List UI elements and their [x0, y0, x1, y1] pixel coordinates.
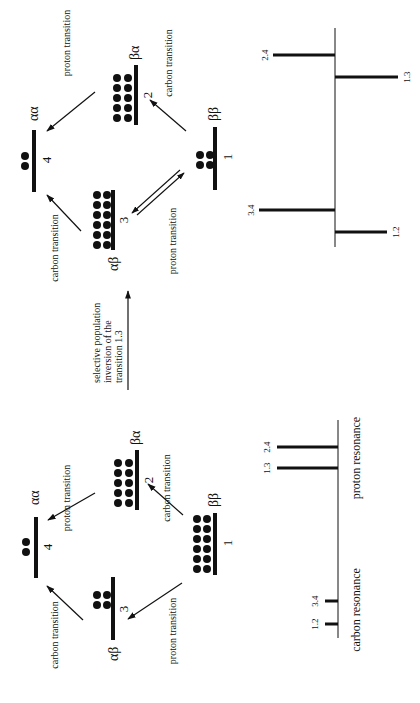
- spin-state-label: αβ: [106, 257, 121, 271]
- transition-label: carbon transition: [161, 454, 172, 521]
- right-level-4: 4 αα: [21, 106, 54, 192]
- transition-label: carbon transition: [49, 214, 60, 281]
- level-number: 2: [140, 92, 155, 99]
- proton-resonance-label: proton resonance: [349, 417, 363, 499]
- level-number: 2: [141, 477, 156, 484]
- right-energy-level-diagram: 4 αα 2 βα 3 αβ: [21, 10, 235, 282]
- level-number: 4: [39, 156, 54, 163]
- annotation-line-1: selective population: [91, 303, 102, 383]
- spin-state-label: αβ: [106, 647, 121, 661]
- transition-label: proton transition: [167, 208, 178, 274]
- right-arrow-1-to-2: [150, 100, 186, 131]
- right-level-3: 3 αβ: [93, 190, 131, 271]
- right-spectrum: 1.2 3.4 1.3 2.4: [246, 28, 412, 247]
- left-level-1: 1 ββ: [193, 493, 235, 575]
- peak-label: 2.4: [260, 49, 270, 61]
- peak-label: 1.3: [402, 71, 412, 83]
- left-spectrum: 1.2 3.4 1.3 2.4 carbon resonance proton …: [262, 417, 363, 652]
- population-dots: [196, 151, 214, 169]
- annotation-line-2: inversion of the: [102, 320, 113, 383]
- spin-state-label: αα: [26, 106, 41, 121]
- population-dots: [93, 191, 111, 249]
- carbon-resonance-label: carbon resonance: [349, 568, 363, 652]
- population-dots: [22, 538, 30, 556]
- right-level-1: 1 ββ: [196, 107, 235, 190]
- left-energy-level-diagram: 4 αα 2 βα 3 αβ: [22, 430, 235, 669]
- level-number: 4: [40, 543, 55, 550]
- right-arrow-2-to-4: [47, 92, 95, 131]
- population-dots: [193, 515, 211, 573]
- transition-label: carbon transition: [49, 601, 60, 668]
- population-dots: [21, 152, 29, 170]
- figure-canvas: 4 αα 2 βα 3 αβ: [0, 0, 420, 703]
- population-dots: [93, 591, 111, 609]
- transition-label: proton transition: [61, 465, 72, 531]
- peak-label: 1.2: [391, 226, 401, 237]
- level-number: 3: [116, 217, 131, 224]
- level-number: 1: [220, 540, 235, 547]
- left-level-4: 4 αα: [22, 490, 55, 578]
- level-number: 3: [116, 606, 131, 613]
- spin-state-label: βα: [127, 45, 142, 60]
- right-level-2: 2 βα: [113, 45, 155, 125]
- spin-state-label: ββ: [206, 107, 221, 121]
- transition-label: proton transition: [167, 598, 178, 664]
- left-level-3: 3 αβ: [93, 577, 131, 661]
- population-dots: [113, 74, 132, 122]
- right-arrow-1-to-3: [132, 170, 180, 213]
- spin-state-label: αα: [27, 490, 42, 505]
- inept-energy-diagram-figure: 4 αα 2 βα 3 αβ: [0, 0, 420, 703]
- transition-label: carbon transition: [163, 29, 174, 96]
- annotation-line-3: transition 1.3: [113, 330, 124, 383]
- peak-label: 2.4: [262, 441, 272, 453]
- selective-inversion-annotation: selective population inversion of the tr…: [91, 291, 128, 390]
- peak-label: 1.2: [310, 618, 320, 629]
- peak-label: 3.4: [246, 204, 256, 216]
- population-dots: [114, 459, 133, 507]
- spin-state-label: ββ: [206, 493, 221, 507]
- spin-state-label: βα: [128, 430, 143, 445]
- transition-label: proton transition: [61, 10, 72, 76]
- peak-label: 1.3: [262, 462, 272, 474]
- level-number: 1: [220, 154, 235, 161]
- peak-label: 3.4: [310, 595, 320, 607]
- left-level-2: 2 βα: [114, 430, 156, 510]
